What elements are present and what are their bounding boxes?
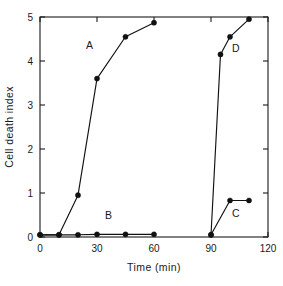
data-point xyxy=(218,52,223,57)
x-tick-label: 30 xyxy=(91,243,103,254)
data-point xyxy=(94,232,99,237)
data-point xyxy=(246,17,251,22)
y-tick-label: 3 xyxy=(27,100,33,111)
y-axis-ticks-right xyxy=(263,17,268,237)
data-point xyxy=(37,232,42,237)
data-point xyxy=(56,232,61,237)
chart-figure: 0306090120 012345 ABCD Time (min) Cell d… xyxy=(0,0,283,286)
y-axis-ticks xyxy=(40,17,45,237)
data-point xyxy=(151,232,156,237)
series-D xyxy=(208,17,251,238)
y-tick-label: 5 xyxy=(27,12,33,23)
x-tick-label: 120 xyxy=(260,243,277,254)
data-series-group xyxy=(37,17,251,238)
series-C xyxy=(208,198,251,238)
x-axis-tick-labels: 0306090120 xyxy=(37,243,277,254)
data-point xyxy=(208,232,213,237)
x-tick-label: 90 xyxy=(205,243,217,254)
data-point xyxy=(227,198,232,203)
line-chart: 0306090120 012345 ABCD Time (min) Cell d… xyxy=(0,0,283,286)
data-point xyxy=(151,20,156,25)
y-tick-label: 2 xyxy=(27,144,33,155)
data-point xyxy=(75,193,80,198)
series-line-C xyxy=(211,200,249,234)
series-A xyxy=(37,20,156,237)
data-point xyxy=(123,34,128,39)
y-axis-title: Cell death index xyxy=(3,86,15,168)
x-tick-label: 60 xyxy=(148,243,160,254)
x-axis-title: Time (min) xyxy=(127,261,181,273)
y-tick-label: 1 xyxy=(27,188,33,199)
data-point xyxy=(123,232,128,237)
series-line-A xyxy=(40,23,154,235)
series-label-B: B xyxy=(105,209,112,221)
series-label-C: C xyxy=(232,207,240,219)
data-point xyxy=(246,198,251,203)
series-label-D: D xyxy=(232,42,240,54)
series-label-A: A xyxy=(86,39,93,51)
data-point xyxy=(94,76,99,81)
x-tick-label: 0 xyxy=(37,243,43,254)
y-tick-label: 4 xyxy=(27,56,33,67)
data-point xyxy=(227,34,232,39)
y-tick-label: 0 xyxy=(27,232,33,243)
data-point xyxy=(75,232,80,237)
y-axis-tick-labels: 012345 xyxy=(27,12,33,243)
